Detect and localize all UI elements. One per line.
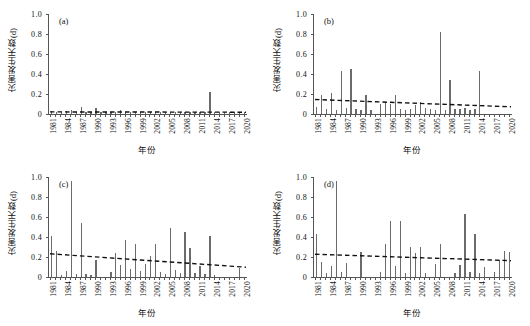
x-tick-label: 2011: [197, 281, 206, 297]
x-tick-label: 1981: [49, 281, 58, 297]
y-tick-mark: [311, 197, 314, 198]
x-tick-label: 1999: [138, 281, 147, 297]
x-tick-mark: [370, 114, 371, 117]
x-tick-label: 1993: [108, 118, 117, 134]
chart-panel-c: 灾害发生天数(d) 1.00.80.60.40.20 (c) 198119841…: [0, 163, 265, 326]
x-axis-title: 年份: [313, 143, 511, 155]
x-tick-label: 2002: [153, 281, 162, 297]
x-tick-label: 2011: [462, 281, 471, 297]
x-tick-label: 1996: [123, 281, 132, 297]
x-tick-mark: [209, 277, 210, 280]
x-tick-mark: [75, 114, 76, 117]
x-tick-label: 1993: [373, 281, 382, 297]
x-tick-mark: [499, 277, 500, 280]
x-tick-label: 1984: [329, 281, 338, 297]
x-tick-mark: [234, 114, 235, 117]
x-tick-mark: [219, 277, 220, 280]
x-tick-label: 2005: [168, 118, 177, 134]
y-tick-label: 0.8: [296, 193, 307, 202]
x-tick-mark: [70, 277, 71, 280]
y-tick-label: 0.4: [296, 70, 307, 79]
y-tick-mark: [311, 177, 314, 178]
x-tick-mark: [489, 277, 490, 280]
x-tick-mark: [459, 114, 460, 117]
y-tick-label: 1.0: [31, 10, 42, 19]
y-tick-mark: [46, 74, 49, 75]
x-tick-mark: [219, 114, 220, 117]
x-tick-mark: [395, 277, 396, 280]
x-axis-tick-labels: 1981198419871990199319961999200220052008…: [313, 281, 511, 305]
x-tick-label: 2017: [492, 118, 501, 134]
y-axis-tick-labels: 1.00.80.60.40.20: [18, 14, 44, 114]
x-tick-label: 1984: [64, 118, 73, 134]
x-tick-mark: [434, 277, 435, 280]
x-tick-mark: [390, 114, 391, 117]
x-tick-label: 2002: [153, 118, 162, 134]
x-tick-mark: [429, 114, 430, 117]
x-tick-mark: [350, 277, 351, 280]
x-tick-mark: [130, 277, 131, 280]
trend-line-segment: [315, 254, 511, 261]
x-tick-mark: [489, 114, 490, 117]
x-tick-mark: [365, 114, 366, 117]
x-tick-mark: [105, 114, 106, 117]
x-tick-mark: [184, 277, 185, 280]
x-tick-label: 1999: [138, 118, 147, 134]
x-tick-mark: [209, 114, 210, 117]
y-axis-tick-labels: 1.00.80.60.40.20: [283, 177, 309, 277]
x-tick-mark: [509, 114, 510, 117]
y-tick-mark: [46, 257, 49, 258]
x-tick-mark: [90, 114, 91, 117]
x-tick-mark: [80, 277, 81, 280]
x-tick-mark: [169, 114, 170, 117]
y-tick-mark: [311, 237, 314, 238]
x-tick-mark: [385, 114, 386, 117]
x-tick-label: 1984: [64, 281, 73, 297]
x-tick-mark: [194, 114, 195, 117]
x-tick-label: 1987: [344, 118, 353, 134]
x-tick-mark: [405, 114, 406, 117]
y-tick-label: 0: [303, 110, 307, 119]
x-tick-mark: [145, 114, 146, 117]
x-tick-mark: [229, 114, 230, 117]
y-tick-mark: [46, 217, 49, 218]
x-tick-label: 2020: [507, 118, 516, 134]
x-tick-mark: [380, 277, 381, 280]
x-tick-mark: [159, 114, 160, 117]
x-tick-label: 2008: [448, 281, 457, 297]
x-tick-label: 2011: [462, 118, 471, 134]
x-tick-mark: [154, 277, 155, 280]
x-tick-mark: [115, 277, 116, 280]
x-tick-label: 2017: [492, 281, 501, 297]
x-tick-mark: [410, 114, 411, 117]
y-tick-label: 1.0: [296, 173, 307, 182]
y-tick-mark: [311, 34, 314, 35]
x-tick-mark: [449, 114, 450, 117]
y-tick-label: 0.8: [296, 30, 307, 39]
x-tick-label: 2008: [448, 118, 457, 134]
x-tick-mark: [60, 277, 61, 280]
plot-area: (c): [48, 177, 247, 278]
x-tick-label: 1990: [94, 118, 103, 134]
y-tick-mark: [46, 94, 49, 95]
x-tick-mark: [414, 277, 415, 280]
x-tick-mark: [120, 114, 121, 117]
plot-area: (d): [313, 177, 512, 278]
x-tick-label: 1999: [403, 118, 412, 134]
x-tick-mark: [494, 277, 495, 280]
x-tick-mark: [459, 277, 460, 280]
x-tick-mark: [400, 277, 401, 280]
x-tick-mark: [70, 114, 71, 117]
x-tick-label: 1981: [314, 118, 323, 134]
y-tick-label: 0.4: [31, 233, 42, 242]
x-tick-mark: [135, 114, 136, 117]
x-tick-mark: [174, 114, 175, 117]
x-tick-mark: [55, 114, 56, 117]
y-tick-label: 0.8: [31, 193, 42, 202]
x-tick-mark: [239, 114, 240, 117]
x-tick-mark: [110, 277, 111, 280]
y-tick-mark: [311, 257, 314, 258]
x-tick-mark: [125, 114, 126, 117]
trend-line: [49, 177, 247, 277]
x-tick-mark: [449, 277, 450, 280]
